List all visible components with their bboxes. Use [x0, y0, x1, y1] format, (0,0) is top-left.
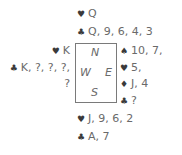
- compass-south: S: [91, 86, 98, 99]
- south-clubs: ♣A, 7: [77, 130, 110, 144]
- south-hearts: ♥J, 9, 6, 2: [77, 112, 133, 126]
- west-clubs-cont: ?: [64, 77, 70, 91]
- east-hearts: ♥5,: [120, 61, 142, 75]
- compass-north: N: [91, 46, 99, 59]
- north-clubs: ♣Q, 9, 6, 4, 3: [77, 25, 153, 39]
- heart-icon: ♥: [120, 63, 128, 73]
- west-clubs: ♣K, ?, ?, ?,: [10, 61, 70, 75]
- heart-icon: ♥: [77, 114, 85, 124]
- compass-box: N W E S: [75, 43, 117, 103]
- east-diamonds: ♦J, 4: [120, 77, 148, 91]
- heart-icon: ♥: [77, 9, 85, 19]
- club-icon: ♣: [10, 63, 18, 73]
- north-hearts: ♥Q: [77, 7, 97, 21]
- club-icon: ♣: [77, 132, 85, 142]
- compass-east: E: [105, 66, 112, 79]
- diamond-icon: ♦: [120, 79, 128, 89]
- club-icon: ♣: [120, 96, 128, 106]
- west-hearts: ♥K: [52, 44, 70, 58]
- club-icon: ♣: [77, 27, 85, 37]
- spade-icon: ♠: [120, 46, 128, 56]
- heart-icon: ♥: [52, 46, 60, 56]
- compass-west: W: [80, 66, 91, 79]
- east-spades: ♠10, 7,: [120, 44, 163, 58]
- east-clubs: ♣?: [120, 94, 137, 108]
